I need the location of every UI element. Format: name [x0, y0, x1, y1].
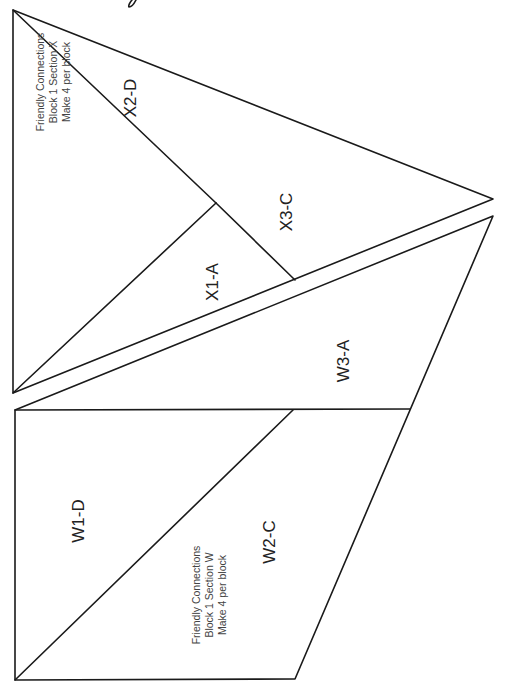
handwriting-stroke: [129, 0, 136, 7]
pattern-canvas: X2-D X1-A X3-C Friendly Connections Bloc…: [0, 0, 507, 696]
note-w-line-3: Make 4 per block: [216, 554, 228, 635]
seam-x2-x1-lower: [13, 203, 216, 393]
piece-label-x3-c: X3-C: [277, 193, 296, 232]
piece-label-x2-d: X2-D: [121, 79, 140, 118]
seam-w1-w2: [15, 410, 293, 680]
note-x-line-1: Friendly Connections: [34, 33, 46, 132]
piece-label-w3-a: W3-A: [334, 339, 353, 382]
piece-label-w1-d: W1-D: [69, 499, 88, 542]
section-x-outline: [13, 10, 493, 393]
seam-w3: [15, 409, 410, 410]
piece-label-w2-c: W2-C: [260, 520, 279, 563]
note-x-line-2: Block 1 Section X: [47, 41, 59, 123]
section-x: X2-D X1-A X3-C Friendly Connections Bloc…: [13, 10, 493, 393]
note-w-line-2: Block 1 Section W: [203, 552, 215, 637]
note-w-line-1: Friendly Connections: [190, 546, 202, 645]
section-x-note: Friendly Connections Block 1 Section X M…: [34, 33, 72, 132]
section-w: W3-A W1-D W2-C Friendly Connections Bloc…: [15, 216, 493, 680]
note-x-line-3: Make 4 per block: [60, 41, 72, 122]
section-w-note: Friendly Connections Block 1 Section W M…: [190, 546, 228, 645]
piece-label-x1-a: X1-A: [203, 262, 222, 300]
